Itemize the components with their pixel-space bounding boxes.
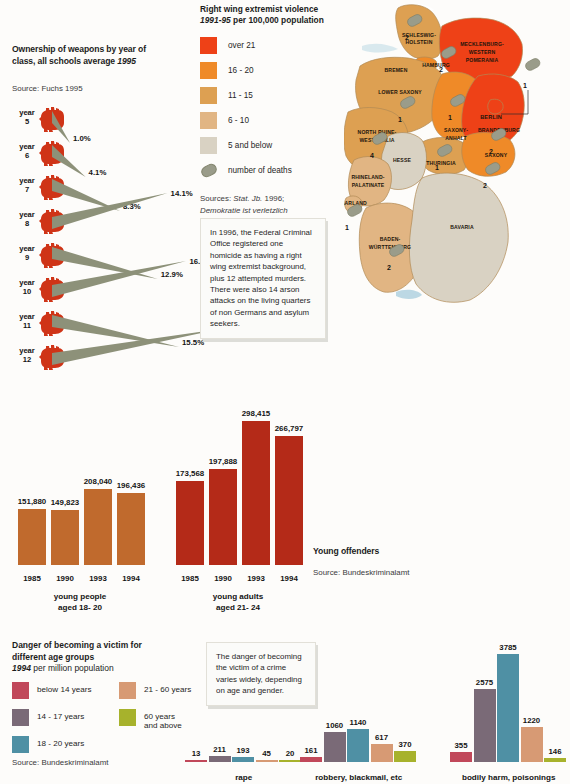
grouped-bar xyxy=(279,760,301,762)
bar-category: 1985 xyxy=(176,574,204,583)
death-count-saxony-anhalt: 1 xyxy=(448,114,452,121)
victim-label-0: below 14 years xyxy=(37,682,91,695)
weapons-wedge xyxy=(52,191,168,231)
bar-category: 1994 xyxy=(275,574,303,583)
map-label-bavaria: BAVARIA xyxy=(450,224,474,230)
legend-label-0: over 21 xyxy=(228,41,255,50)
legend-item-over-21: over 21 xyxy=(200,33,345,58)
victim-swatch-2 xyxy=(12,736,29,753)
grouped-bar-value: 3785 xyxy=(491,643,525,652)
victim-legend-year: 1994 xyxy=(12,663,31,673)
grouped-bar xyxy=(544,758,566,762)
map-label-saxony-anhalt-2: ANHALT xyxy=(445,135,467,141)
bar xyxy=(275,436,303,565)
legend-item-16-20: 16 - 20 xyxy=(200,58,345,83)
bar xyxy=(84,489,112,565)
victim-legend-item-1: 14 - 17 years xyxy=(12,709,84,726)
legend-swatch-1 xyxy=(200,62,217,79)
grouped-bar xyxy=(497,654,519,762)
map-label-hesse: HESSE xyxy=(393,157,411,163)
map-label-berlin: BERLIN xyxy=(480,114,502,120)
bar xyxy=(51,510,79,565)
grouped-bar xyxy=(394,751,416,762)
grouped-bar-value: 370 xyxy=(388,740,422,749)
legend-label-3: 6 - 10 xyxy=(228,116,249,125)
young-offenders-title: Young offenders Source: Bundeskriminalam… xyxy=(313,546,409,577)
legend-item-6-10: 6 - 10 xyxy=(200,108,345,133)
bar-value: 266,797 xyxy=(269,424,309,433)
map-sources-prefix: Sources: xyxy=(200,194,233,203)
chart-caption-line1: young adults xyxy=(168,591,308,602)
map-legend-title-rest: per 100,000 population xyxy=(231,15,324,25)
map-legend-swatches: over 21 16 - 20 11 - 15 6 - 10 5 and bel… xyxy=(200,33,345,183)
death-count-mecklenburg: 2 xyxy=(439,66,443,73)
victim-swatch-0 xyxy=(12,682,29,699)
victim-legend-unit: per million population xyxy=(31,663,114,673)
legend-item-deaths: number of deaths xyxy=(200,158,345,183)
map-label-schleswig-holstein-2: HOLSTEIN xyxy=(406,39,433,45)
legend-label-1: 16 - 20 xyxy=(228,66,254,75)
grouped-bar xyxy=(209,756,231,762)
group-label: robbery, blackmail, etc xyxy=(300,773,418,782)
legend-label-deaths: number of deaths xyxy=(228,166,292,175)
death-count-schleswig: 2 xyxy=(405,34,409,41)
victim-swatch-1 xyxy=(12,709,29,726)
callout-map: In 1996, the Federal Criminal Office reg… xyxy=(200,218,326,339)
map-legend: Right wing extremist violence 1991-95 pe… xyxy=(200,4,345,216)
victim-label-1: 14 - 17 years xyxy=(37,709,84,722)
victim-legend-title1: Danger of becoming a victim for xyxy=(12,640,142,650)
map-legend-title: Right wing extremist violence xyxy=(200,4,318,14)
victim-swatch-4 xyxy=(119,709,136,726)
grouped-bar xyxy=(256,760,278,762)
chart-caption-line1: young people xyxy=(10,591,150,602)
young-offenders-source: Source: Bundeskriminalamt xyxy=(313,568,409,577)
bar-category: 1993 xyxy=(242,574,270,583)
chart-young-adults-caption: young adultsaged 21- 24 xyxy=(168,591,308,613)
legend-swatch-0 xyxy=(200,37,217,54)
grouped-bar xyxy=(324,732,346,762)
legend-label-2: 11 - 15 xyxy=(228,91,253,100)
bar xyxy=(176,481,204,565)
map-sources-italic: Stat. Jb. xyxy=(233,194,262,203)
weapons-value: 14.1% xyxy=(171,189,193,198)
victim-legend-item-4: 60 yearsand above xyxy=(119,709,182,732)
victim-legend-title2: different age groups xyxy=(12,652,94,662)
legend-item-11-15: 11 - 15 xyxy=(200,83,345,108)
bar-value: 298,415 xyxy=(236,409,276,418)
bullet-casing-icon xyxy=(200,164,217,177)
map-label-mecklenburg: MECKLENBURG- xyxy=(460,41,504,47)
legend-swatch-3 xyxy=(200,112,217,129)
map-sources-suffix: 1996; xyxy=(262,194,284,203)
germany-map: .st{stroke:#b08a55;stroke-width:0.7;} .r… xyxy=(344,2,570,370)
chart-young-people-caption: young peopleaged 18- 20 xyxy=(10,591,150,613)
bar xyxy=(242,421,270,565)
map-label-saxony-anhalt: SAXONY- xyxy=(444,127,468,133)
bar-category: 1990 xyxy=(209,574,237,583)
young-offenders-heading: Young offenders xyxy=(313,546,409,558)
grouped-bar xyxy=(185,760,207,762)
map-label-mecklenburg-3: POMERANIA xyxy=(466,57,499,63)
bar-value: 196,436 xyxy=(111,481,151,490)
death-count-bw: 2 xyxy=(387,264,391,271)
death-count-saxony: 2 xyxy=(483,182,487,189)
victim-swatch-3 xyxy=(119,682,136,699)
weapons-title-line1: Ownership of weapons by year of xyxy=(12,44,146,54)
victim-grouped-chart: 132111934520rape16110601140617370robbery… xyxy=(180,640,570,784)
map-label-nrw: NORTH RHINE- xyxy=(358,129,397,135)
bar-value: 173,568 xyxy=(170,469,210,478)
weapons-wedge xyxy=(52,327,220,367)
group-label: rape xyxy=(185,773,303,782)
chart-young-adults: 173,5681985197,8881990298,4151993266,797… xyxy=(168,420,308,585)
chart-young-people: 151,8801985149,8231990208,0401993196,436… xyxy=(10,455,150,585)
chart-caption-line2: aged 21- 24 xyxy=(168,602,308,613)
weapons-wedge xyxy=(52,259,186,299)
victim-label-4: 60 yearsand above xyxy=(144,709,182,732)
grouped-bar xyxy=(300,757,322,762)
bar-category: 1985 xyxy=(18,574,46,583)
grouped-bar xyxy=(521,727,543,762)
grouped-bar xyxy=(450,752,472,762)
group-label: bodily harm, poisonings xyxy=(450,773,568,782)
map-label-thuringia: THURINGIA xyxy=(426,160,456,166)
legend-item-5-below: 5 and below xyxy=(200,133,345,158)
chart-caption-line2: aged 18- 20 xyxy=(10,602,150,613)
